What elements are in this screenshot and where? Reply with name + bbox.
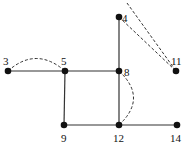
node-3	[5, 68, 12, 75]
dashed-edges	[8, 3, 176, 125]
dashed-arc-3-5	[8, 59, 65, 72]
label-3: 3	[3, 55, 9, 67]
label-11: 11	[171, 55, 182, 67]
label-9: 9	[61, 132, 67, 144]
dashed-edge-top-11	[127, 3, 176, 71]
solid-edges	[8, 17, 177, 125]
label-4: 4	[122, 12, 128, 24]
node-labels: 3 5 8 4 11 9 12 14	[3, 12, 182, 144]
label-14: 14	[170, 132, 182, 144]
node-11	[173, 68, 180, 75]
node-8	[116, 68, 123, 75]
label-8: 8	[124, 66, 130, 78]
label-12: 12	[113, 132, 124, 144]
node-12	[116, 122, 123, 129]
node-5	[62, 68, 69, 75]
edge-5-9	[64, 71, 65, 125]
node-9	[61, 122, 68, 129]
dashed-arc-8-12	[119, 71, 134, 125]
dashed-edge-4-11	[119, 17, 176, 71]
graph-diagram: 3 5 8 4 11 9 12 14	[0, 0, 187, 155]
node-14	[174, 122, 181, 129]
label-5: 5	[61, 55, 67, 67]
